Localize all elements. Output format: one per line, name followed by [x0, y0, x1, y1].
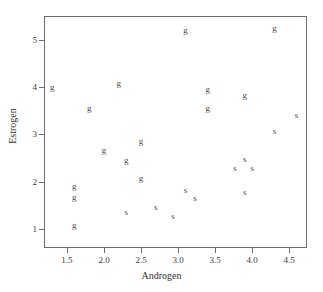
data-point-g: g: [72, 192, 77, 201]
x-tick-label: 3.5: [210, 255, 221, 265]
x-tick-mark: [178, 248, 179, 253]
y-tick-label: 4: [26, 82, 37, 92]
x-tick-label: 4.5: [284, 255, 295, 265]
data-point-g: g: [72, 221, 77, 230]
y-tick-mark: [39, 40, 44, 41]
data-point-g: g: [139, 174, 144, 183]
x-tick-mark: [67, 248, 68, 253]
data-point-s: s: [243, 154, 247, 163]
data-point-g: g: [72, 182, 77, 191]
x-tick-label: 1.5: [61, 255, 72, 265]
data-point-s: s: [295, 111, 299, 120]
y-tick-label: 3: [26, 129, 37, 139]
y-tick-label: 2: [26, 177, 37, 187]
y-tick-mark: [39, 182, 44, 183]
data-point-g: g: [205, 85, 210, 94]
data-point-s: s: [184, 186, 188, 195]
data-point-g: g: [117, 79, 122, 88]
x-tick-label: 2.5: [135, 255, 146, 265]
y-tick-label: 5: [26, 35, 37, 45]
y-tick-mark: [39, 87, 44, 88]
y-tick-mark: [39, 134, 44, 135]
x-tick-label: 3.0: [172, 255, 183, 265]
data-point-g: g: [124, 156, 129, 165]
data-point-g: g: [87, 104, 92, 113]
y-tick-label: 1: [26, 224, 37, 234]
data-point-s: s: [193, 194, 197, 203]
data-point-g: g: [205, 104, 210, 113]
x-tick-mark: [215, 248, 216, 253]
x-tick-label: 2.0: [98, 255, 109, 265]
data-point-g: g: [50, 83, 55, 92]
data-point-g: g: [243, 91, 248, 100]
y-tick-mark: [39, 229, 44, 230]
x-tick-mark: [289, 248, 290, 253]
data-point-g: g: [183, 26, 188, 35]
y-axis-label: Estrogen: [7, 81, 19, 171]
x-tick-mark: [104, 248, 105, 253]
data-point-s: s: [154, 202, 158, 211]
data-point-g: g: [102, 145, 107, 154]
data-point-g: g: [272, 23, 277, 32]
x-tick-mark: [252, 248, 253, 253]
data-point-s: s: [243, 188, 247, 197]
data-point-s: s: [273, 127, 277, 136]
plot-area-frame: [44, 16, 307, 248]
data-point-s: s: [250, 164, 254, 173]
x-tick-label: 4.0: [247, 255, 258, 265]
x-tick-mark: [141, 248, 142, 253]
scatter-plot-figure: gggggggggggggggsssssssssss 1.52.02.53.03…: [0, 0, 323, 292]
data-point-g: g: [139, 137, 144, 146]
x-axis-label: Androgen: [0, 270, 323, 282]
data-point-s: s: [124, 208, 128, 217]
data-point-s: s: [233, 164, 237, 173]
data-point-s: s: [171, 212, 175, 221]
